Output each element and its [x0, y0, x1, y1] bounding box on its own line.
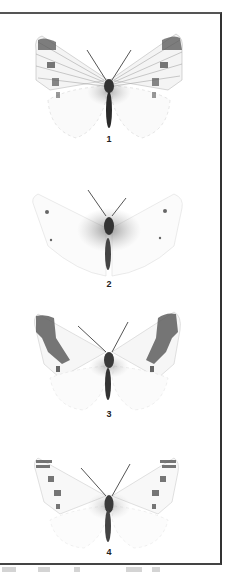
specimen-1: 1 — [0, 20, 220, 150]
butterfly-4-image — [0, 446, 220, 561]
specimen-plate: 1 2 — [0, 12, 222, 565]
specimen-label-3: 3 — [0, 409, 220, 419]
specimen-label-2: 2 — [0, 279, 220, 289]
specimen-4: 4 — [0, 446, 220, 561]
cropped-caption-fragments — [0, 566, 232, 573]
specimen-3: 3 — [0, 308, 220, 428]
specimen-label-4: 4 — [0, 547, 220, 557]
specimen-2: 2 — [0, 176, 220, 296]
specimen-label-1: 1 — [0, 134, 220, 144]
butterfly-1-image — [0, 20, 220, 150]
butterfly-2-image — [0, 176, 220, 296]
